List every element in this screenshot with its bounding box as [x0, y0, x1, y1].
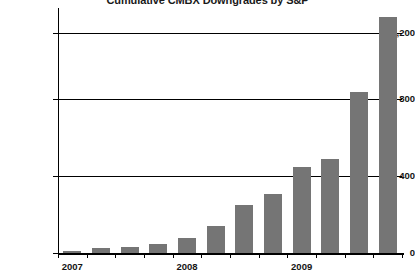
x-tick-6: [230, 254, 231, 258]
chart-container: Cumulative CMBX Downgrades by S&P 1,200 …: [0, 0, 415, 275]
bar-4: [149, 244, 167, 253]
y-axis-line: [58, 8, 59, 254]
x-axis-label-2008: 2008: [172, 261, 202, 272]
x-tick-8: [287, 254, 288, 258]
bar-10: [321, 159, 339, 253]
x-axis-label-2007: 2007: [57, 261, 87, 272]
x-tick-0: [58, 254, 59, 258]
x-axis-line: [58, 253, 404, 255]
bar-3: [121, 247, 139, 253]
x-tick-11: [373, 254, 374, 258]
x-tick-12: [402, 254, 403, 258]
x-tick-4: [173, 254, 174, 258]
bar-12: [379, 17, 397, 254]
x-tick-2: [115, 254, 116, 258]
bar-2: [92, 248, 110, 253]
x-tick-10: [345, 254, 346, 258]
bar-6: [207, 226, 225, 254]
x-tick-9: [316, 254, 317, 258]
x-tick-7: [259, 254, 260, 258]
chart-title: Cumulative CMBX Downgrades by S&P: [0, 0, 415, 7]
bar-5: [178, 238, 196, 253]
bar-7: [235, 205, 253, 253]
gridline-1200: [58, 33, 402, 34]
bar-1: [63, 251, 81, 253]
bar-11: [350, 92, 368, 253]
x-tick-3: [144, 254, 145, 258]
bar-9: [293, 167, 311, 253]
x-tick-5: [201, 254, 202, 258]
x-axis-label-2009: 2009: [287, 261, 317, 272]
bar-8: [264, 194, 282, 253]
x-tick-1: [87, 254, 88, 258]
